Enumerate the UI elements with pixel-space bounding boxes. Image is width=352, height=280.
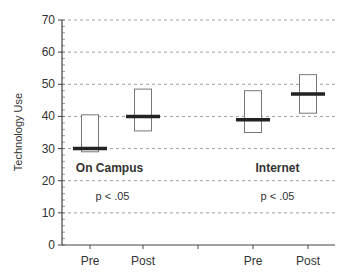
group-label: Internet <box>255 161 299 175</box>
box <box>82 115 99 152</box>
box <box>135 89 152 131</box>
x-tick-label: Post <box>296 254 321 268</box>
box <box>245 91 262 133</box>
y-tick-label: 40 <box>42 109 56 123</box>
significance-annotation: p < .05 <box>96 190 130 202</box>
box-chart: 010203040506070Technology UsePrePostOn C… <box>0 0 352 280</box>
x-tick-label: Pre <box>244 254 263 268</box>
y-tick-label: 30 <box>42 142 56 156</box>
y-tick-label: 10 <box>42 206 56 220</box>
chart-canvas: 010203040506070Technology UsePrePostOn C… <box>0 0 352 280</box>
significance-annotation: p < .05 <box>261 190 295 202</box>
y-tick-label: 60 <box>42 45 56 59</box>
y-tick-label: 0 <box>48 238 55 252</box>
y-tick-label: 70 <box>42 13 56 27</box>
y-axis-label: Technology Use <box>12 93 24 171</box>
x-tick-label: Post <box>131 254 156 268</box>
group-label: On Campus <box>76 161 144 175</box>
y-tick-label: 20 <box>42 174 56 188</box>
y-tick-label: 50 <box>42 77 56 91</box>
x-tick-label: Pre <box>81 254 100 268</box>
